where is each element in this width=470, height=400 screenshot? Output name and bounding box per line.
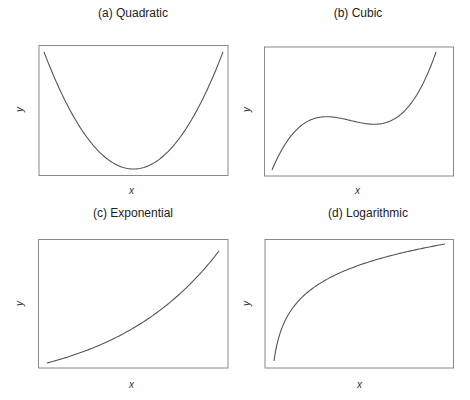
- curve-quadratic: [44, 52, 223, 169]
- charts-canvas: [0, 0, 470, 400]
- plot-frame-cubic: [265, 47, 454, 176]
- plot-frame-quadratic: [39, 46, 228, 176]
- plot-frame-logarithmic: [265, 240, 454, 369]
- curve-cubic: [272, 52, 436, 170]
- curve-logarithmic: [274, 244, 445, 361]
- curve-exponential: [47, 251, 219, 363]
- plot-frame-exponential: [39, 240, 229, 369]
